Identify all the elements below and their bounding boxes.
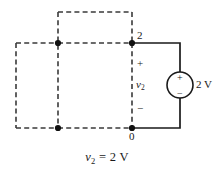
node-label-0: 0 bbox=[129, 131, 135, 142]
caption-subscript: 2 bbox=[91, 156, 96, 166]
figure-caption: v2 = 2 V bbox=[0, 150, 214, 165]
junction-dots bbox=[55, 40, 135, 131]
source-plus-icon: + bbox=[177, 73, 183, 83]
junction-dot-mid-bottom bbox=[55, 125, 61, 131]
junction-dot-node-2 bbox=[129, 40, 135, 46]
polarity-plus-label: + bbox=[137, 58, 143, 69]
caption-relation: = 2 V bbox=[96, 150, 129, 164]
figure-container: 2 0 + v2 − + − 2 V v2 = 2 V bbox=[0, 0, 214, 178]
polarity-minus-label: − bbox=[137, 103, 143, 114]
branch-voltage-label: v2 bbox=[136, 79, 145, 90]
node-label-2: 2 bbox=[137, 30, 143, 41]
branch-voltage-subscript: 2 bbox=[141, 83, 145, 92]
junction-dot-mid-top bbox=[55, 40, 61, 46]
source-value-label: 2 V bbox=[196, 79, 212, 90]
source-minus-icon: − bbox=[177, 89, 183, 99]
dashed-network bbox=[16, 12, 132, 128]
